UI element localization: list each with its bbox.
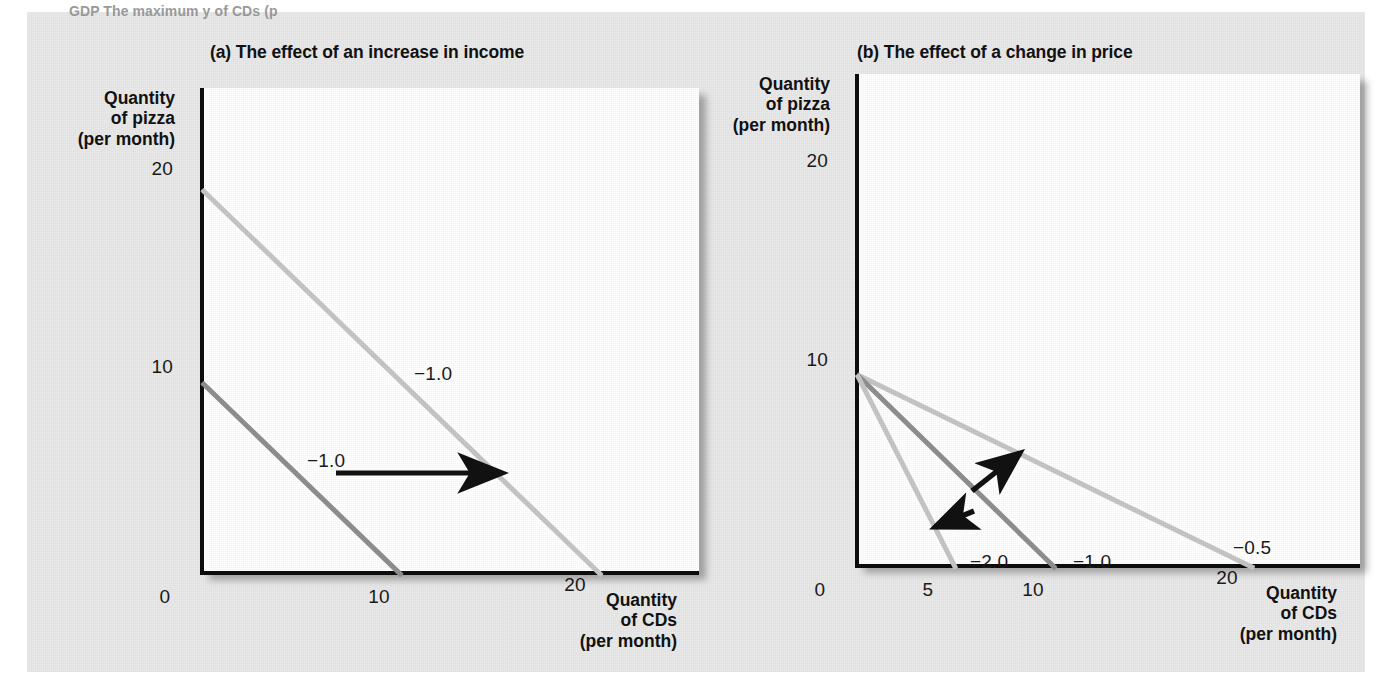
panel-a-x-axis-title-line3: (per month) xyxy=(477,631,677,651)
panel-b-plot-inner: −2.0 −1.0 −0.5 xyxy=(857,74,1360,566)
panel-b-y-axis-title-line2: of pizza xyxy=(702,94,830,114)
panel-a-plot-area: −1.0 −1.0 xyxy=(202,88,699,573)
panel-a-y-axis-title-line1: Quantity xyxy=(47,88,175,108)
panel-b-x-axis-title-line3: (per month) xyxy=(1137,624,1337,644)
panel-b-arrows xyxy=(857,74,1360,566)
panel-a-y-axis-title: Quantity of pizza (per month) xyxy=(47,88,175,149)
panel-a-ytick-10: 10 xyxy=(115,356,173,378)
panel-b-y-axis-title-line3: (per month) xyxy=(702,115,830,135)
panel-a-ytick-20: 20 xyxy=(115,158,173,180)
panel-b-xtick-0: 0 xyxy=(790,579,850,601)
panel-a-xtick-10: 10 xyxy=(349,586,409,608)
panel-a-x-axis-title-line1: Quantity xyxy=(477,590,677,610)
panel-b-xtick-10: 10 xyxy=(1003,579,1063,601)
up-right-arrow xyxy=(972,453,1020,491)
panel-b-ytick-10: 10 xyxy=(770,349,828,371)
panel-a-y-axis-title-line2: of pizza xyxy=(47,108,175,128)
panel-b-x-axis-title-line2: of CDs xyxy=(1137,603,1337,623)
panel-a-xtick-0: 0 xyxy=(135,586,195,608)
panel-a-x-axis-title: Quantity of CDs (per month) xyxy=(477,590,677,651)
panel-b-xtick-5: 5 xyxy=(898,579,958,601)
panel-a-x-axis-title-line2: of CDs xyxy=(477,610,677,630)
panel-a-title: (a) The effect of an increase in income xyxy=(210,42,524,63)
panel-b-title: (b) The effect of a change in price xyxy=(857,42,1133,63)
panel-b-x-axis-title-line1: Quantity xyxy=(1137,583,1337,603)
panel-b-plot-area: −2.0 −1.0 −0.5 xyxy=(857,74,1360,566)
panel-b-y-axis-title: Quantity of pizza (per month) xyxy=(702,74,830,135)
down-left-arrow xyxy=(935,511,974,527)
panel-b-x-axis-title: Quantity of CDs (per month) xyxy=(1137,583,1337,644)
panel-b-ytick-20: 20 xyxy=(770,150,828,172)
rightward-shift-arrow xyxy=(202,88,699,573)
cropped-caption-text: GDP The maximum y of CDs (p xyxy=(69,3,969,19)
panel-a-plot-inner: −1.0 −1.0 xyxy=(202,88,699,573)
panel-a-y-axis-title-line3: (per month) xyxy=(47,129,175,149)
figure-card: GDP The maximum y of CDs (p (a) The effe… xyxy=(27,12,1365,672)
panel-b-y-axis-title-line1: Quantity xyxy=(702,74,830,94)
